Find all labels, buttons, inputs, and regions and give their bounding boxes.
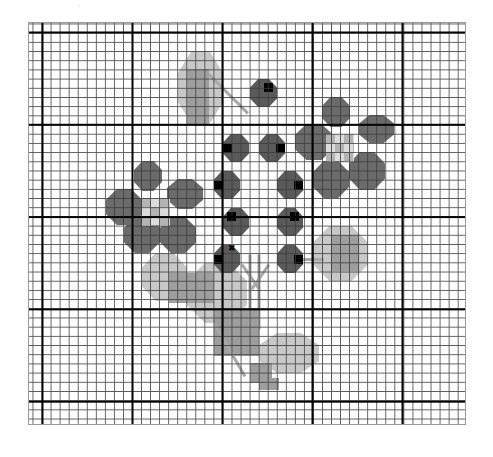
chart-top-mark: · <box>78 2 81 11</box>
cross-stitch-chart: ✖ <box>28 22 466 425</box>
major-grid <box>29 23 465 424</box>
center-mark-icon: ✖ <box>228 244 236 253</box>
